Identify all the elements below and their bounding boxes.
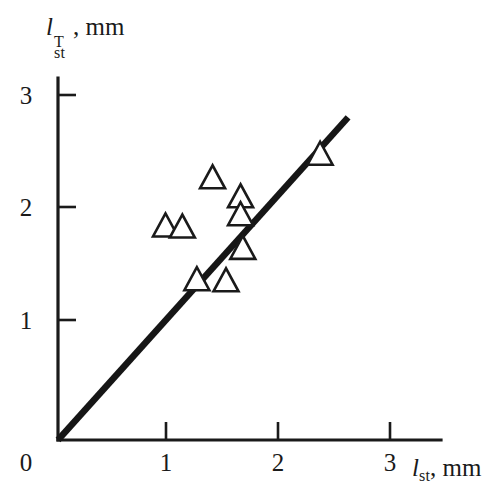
y-axis-subscript: st <box>54 45 65 61</box>
x-tick-label-1: 1 <box>154 450 178 475</box>
y-tick-label-3: 3 <box>14 83 38 108</box>
chart-figure: lTst, mm lst, mm 0 3 2 1 1 2 3 <box>0 0 501 495</box>
data-point-marker <box>308 142 333 165</box>
y-tick-label-2: 2 <box>14 195 38 220</box>
x-tick-label-3: 3 <box>378 450 402 475</box>
x-axis-ticks <box>166 422 390 440</box>
x-axis-title: lst, mm <box>412 455 481 484</box>
data-point-marker <box>214 268 239 291</box>
x-axis-unit: mm <box>443 454 482 481</box>
origin-tick-label: 0 <box>14 450 38 475</box>
chart-canvas <box>0 0 501 495</box>
x-axis-separator: , <box>430 454 443 481</box>
y-axis-ticks <box>58 95 76 320</box>
y-axis-variable: l <box>46 13 53 40</box>
y-axis-separator: , <box>73 13 86 40</box>
y-axis-unit: mm <box>85 13 124 40</box>
x-tick-label-2: 2 <box>266 450 290 475</box>
x-axis-variable: l <box>412 454 419 481</box>
x-axis-subscript: st <box>419 467 430 484</box>
y-tick-label-1: 1 <box>14 308 38 333</box>
data-point-marker <box>200 165 225 188</box>
y-axis-title: lTst, mm <box>46 14 124 39</box>
